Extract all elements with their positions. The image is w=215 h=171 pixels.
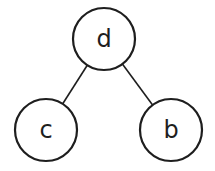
tree-diagram-canvas: dcb bbox=[0, 0, 215, 171]
tree-diagram: dcb bbox=[0, 0, 215, 171]
node-d-label: d bbox=[96, 25, 111, 53]
node-c-label: c bbox=[39, 116, 52, 144]
node-b-label: b bbox=[163, 116, 178, 144]
